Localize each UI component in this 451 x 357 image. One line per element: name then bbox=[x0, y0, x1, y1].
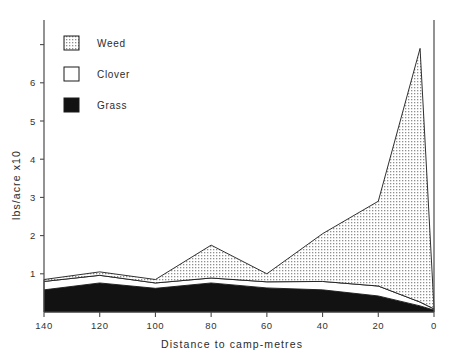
x-tick-label: 80 bbox=[205, 320, 217, 331]
y-axis-ticks: 123456 bbox=[30, 45, 44, 280]
x-tick-label: 40 bbox=[317, 320, 329, 331]
y-axis-title: lbs/acre x10 bbox=[10, 150, 22, 220]
y-tick-label: 4 bbox=[30, 154, 36, 165]
y-tick-label: 2 bbox=[30, 230, 36, 241]
x-tick-label: 0 bbox=[431, 320, 437, 331]
plot-series-group bbox=[44, 48, 434, 312]
y-tick-label: 3 bbox=[30, 192, 36, 203]
chart-canvas: 123456 140120100806040200 lbs/acre x10 D… bbox=[0, 0, 451, 357]
legend-label-clover: Clover bbox=[97, 69, 130, 80]
y-tick-label: 5 bbox=[30, 116, 36, 127]
x-tick-label: 60 bbox=[261, 320, 273, 331]
x-tick-label: 140 bbox=[35, 320, 53, 331]
legend-swatch-grass bbox=[64, 98, 79, 112]
x-tick-label: 20 bbox=[372, 320, 384, 331]
series-band-weed bbox=[44, 48, 434, 309]
legend-label-grass: Grass bbox=[97, 100, 127, 111]
x-axis-title: Distance to camp-metres bbox=[161, 338, 303, 350]
legend: WeedCloverGrass bbox=[64, 36, 130, 112]
legend-swatch-weed bbox=[64, 36, 79, 50]
legend-label-weed: Weed bbox=[97, 38, 126, 49]
x-tick-label: 120 bbox=[91, 320, 109, 331]
stacked-area-chart: 123456 140120100806040200 lbs/acre x10 D… bbox=[0, 0, 451, 357]
legend-swatch-clover bbox=[64, 67, 79, 81]
x-axis-ticks: 140120100806040200 bbox=[35, 312, 437, 331]
x-tick-label: 100 bbox=[147, 320, 165, 331]
y-tick-label: 1 bbox=[30, 268, 36, 279]
y-tick-label: 6 bbox=[30, 77, 36, 88]
